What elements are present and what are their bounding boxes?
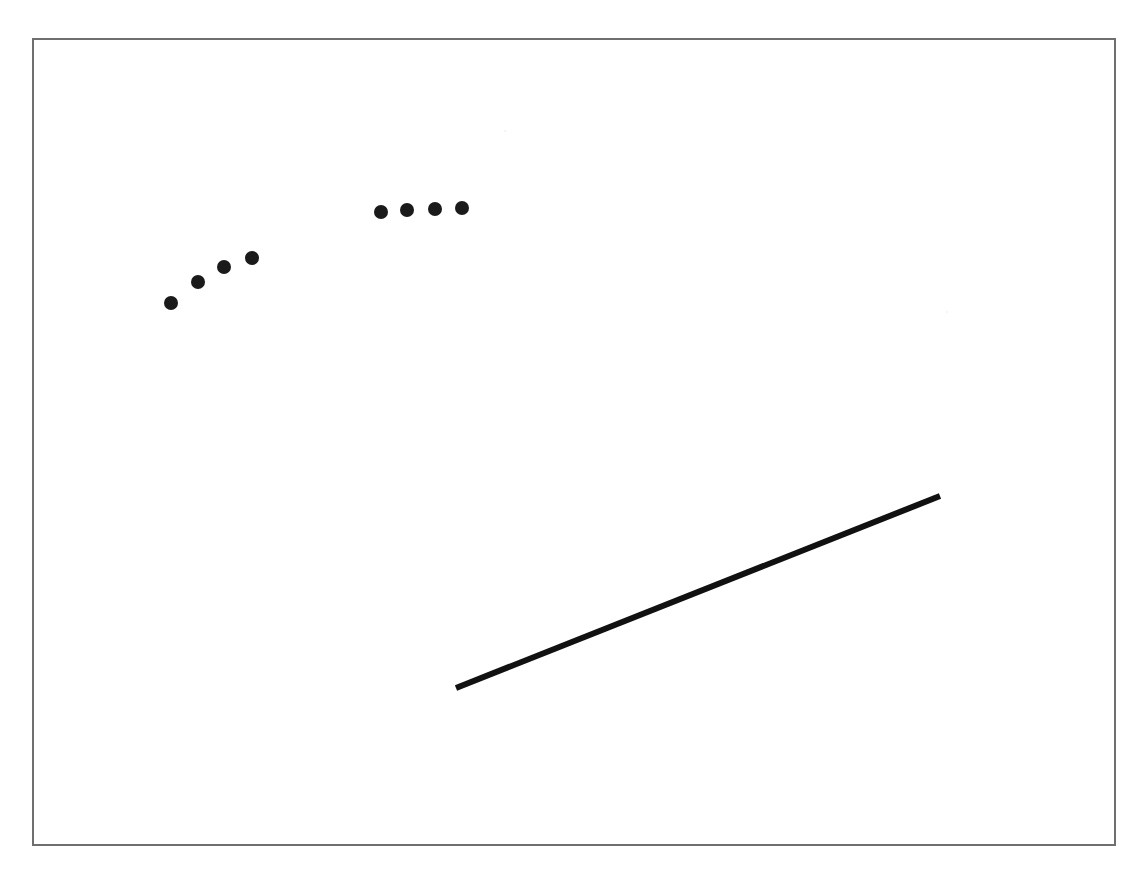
data-point <box>191 275 205 289</box>
scan-speck-right <box>946 311 948 313</box>
data-point <box>217 260 231 274</box>
data-point <box>374 205 388 219</box>
figure-root <box>0 0 1146 882</box>
data-point <box>400 203 414 217</box>
figure-background <box>0 0 1146 882</box>
data-point <box>428 202 442 216</box>
data-point <box>455 201 469 215</box>
data-point <box>245 251 259 265</box>
scatter-plot-canvas <box>0 0 1146 882</box>
data-point <box>164 296 178 310</box>
scan-speck-upper <box>504 130 506 132</box>
